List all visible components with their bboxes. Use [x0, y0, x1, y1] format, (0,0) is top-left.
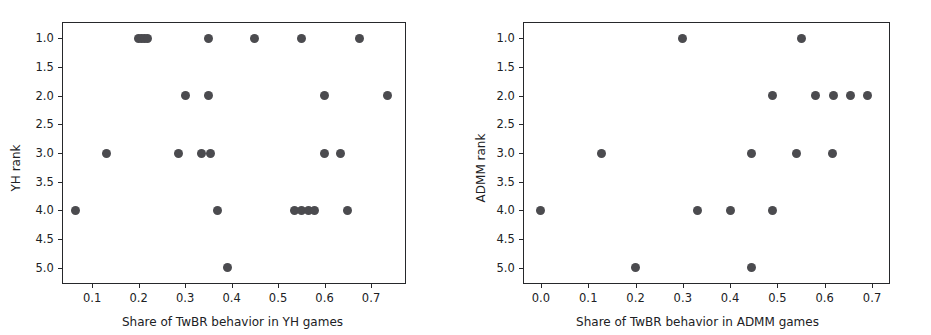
x-tick-label-yh: 0.3: [176, 291, 195, 305]
y-tick-yh: [58, 268, 62, 269]
data-point: [828, 149, 837, 158]
x-tick-admm: [825, 284, 826, 288]
y-tick-label-admm: 2.5: [487, 117, 515, 131]
data-point: [310, 206, 319, 215]
x-tick-yh: [371, 284, 372, 288]
data-point: [597, 149, 606, 158]
x-tick-label-yh: 0.4: [222, 291, 241, 305]
y-tick-label-yh: 2.5: [26, 117, 54, 131]
y-tick-label-yh: 5.0: [26, 261, 54, 275]
x-tick-admm: [636, 284, 637, 288]
y-tick-label-yh: 4.5: [26, 232, 54, 246]
x-tick-admm: [541, 284, 542, 288]
y-tick-label-yh: 4.0: [26, 203, 54, 217]
y-tick-label-admm: 4.0: [487, 203, 515, 217]
data-point: [204, 34, 213, 43]
x-tick-label-admm: 0.6: [815, 291, 834, 305]
y-tick-yh: [58, 210, 62, 211]
x-tick-label-admm: 0.4: [721, 291, 740, 305]
x-tick-admm: [777, 284, 778, 288]
x-tick-label-admm: 0.7: [863, 291, 882, 305]
x-tick-yh: [92, 284, 93, 288]
y-tick-yh: [58, 182, 62, 183]
x-tick-admm: [588, 284, 589, 288]
y-tick-label-admm: 1.5: [487, 60, 515, 74]
x-tick-admm: [730, 284, 731, 288]
x-tick-label-yh: 0.7: [362, 291, 381, 305]
x-tick-yh: [185, 284, 186, 288]
x-tick-admm: [683, 284, 684, 288]
y-tick-yh: [58, 124, 62, 125]
x-tick-label-yh: 0.2: [129, 291, 148, 305]
y-tick-admm: [519, 38, 523, 39]
y-tick-label-yh: 3.5: [26, 175, 54, 189]
data-point: [383, 91, 392, 100]
data-point: [174, 149, 183, 158]
y-tick-label-yh: 1.0: [26, 31, 54, 45]
y-axis-label-wrap-yh: YH rank: [0, 0, 24, 335]
data-point: [678, 34, 687, 43]
y-tick-label-admm: 2.0: [487, 89, 515, 103]
y-tick-admm: [519, 210, 523, 211]
data-point: [811, 91, 820, 100]
panel-yh: YH rank Share of TwBR behavior in YH gam…: [0, 0, 465, 335]
y-axis-label-admm: ADMM rank: [474, 133, 488, 202]
x-tick-label-yh: 0.1: [83, 291, 102, 305]
y-tick-admm: [519, 153, 523, 154]
data-point: [320, 149, 329, 158]
data-point: [250, 34, 259, 43]
x-tick-label-admm: 0.1: [579, 291, 598, 305]
x-tick-label-admm: 0.0: [532, 291, 551, 305]
data-point: [206, 149, 215, 158]
x-tick-yh: [325, 284, 326, 288]
data-point: [355, 34, 364, 43]
data-point: [792, 149, 801, 158]
x-tick-label-admm: 0.5: [768, 291, 787, 305]
y-tick-label-admm: 3.5: [487, 175, 515, 189]
data-point: [181, 91, 190, 100]
axes-yh: [62, 22, 406, 284]
data-point: [747, 149, 756, 158]
y-tick-label-admm: 4.5: [487, 232, 515, 246]
data-point: [223, 263, 232, 272]
y-tick-admm: [519, 268, 523, 269]
y-tick-yh: [58, 96, 62, 97]
y-tick-label-yh: 3.0: [26, 146, 54, 160]
y-tick-admm: [519, 96, 523, 97]
data-point: [102, 149, 111, 158]
y-tick-yh: [58, 153, 62, 154]
data-point: [297, 34, 306, 43]
data-point: [726, 206, 735, 215]
data-point: [197, 149, 206, 158]
y-axis-label-wrap-admm: ADMM rank: [465, 0, 489, 335]
y-tick-admm: [519, 124, 523, 125]
data-point: [336, 149, 345, 158]
data-point: [829, 91, 838, 100]
scatter-figure: YH rank Share of TwBR behavior in YH gam…: [0, 0, 931, 335]
y-tick-label-admm: 5.0: [487, 261, 515, 275]
data-point: [143, 34, 152, 43]
y-tick-admm: [519, 67, 523, 68]
y-tick-label-admm: 3.0: [487, 146, 515, 160]
x-tick-label-yh: 0.5: [269, 291, 288, 305]
data-point: [693, 206, 702, 215]
x-tick-label-admm: 0.2: [626, 291, 645, 305]
x-tick-admm: [872, 284, 873, 288]
x-tick-label-admm: 0.3: [674, 291, 693, 305]
y-tick-yh: [58, 67, 62, 68]
panel-admm: ADMM rank Share of TwBR behavior in ADMM…: [465, 0, 930, 335]
data-point: [797, 34, 806, 43]
data-point: [204, 91, 213, 100]
x-axis-label-yh: Share of TwBR behavior in YH games: [122, 315, 343, 329]
y-tick-yh: [58, 38, 62, 39]
x-tick-yh: [232, 284, 233, 288]
y-tick-label-admm: 1.0: [487, 31, 515, 45]
y-tick-label-yh: 1.5: [26, 60, 54, 74]
y-tick-label-yh: 2.0: [26, 89, 54, 103]
y-tick-admm: [519, 239, 523, 240]
x-tick-yh: [139, 284, 140, 288]
y-tick-admm: [519, 182, 523, 183]
data-point: [863, 91, 872, 100]
y-tick-yh: [58, 239, 62, 240]
x-axis-label-admm: Share of TwBR behavior in ADMM games: [576, 315, 819, 329]
